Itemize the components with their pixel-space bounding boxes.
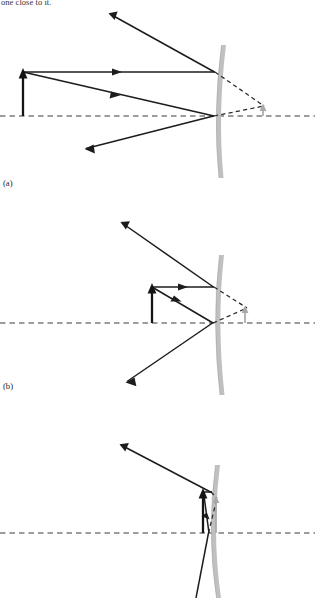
virtual-ray-a-parallel [215, 72, 264, 106]
vertex-incident-ray-a [23, 72, 214, 116]
panel-label-b: (b) [3, 381, 13, 391]
ray-diagram-canvas [0, 0, 315, 598]
panel-b [0, 221, 315, 395]
parallel-reflected-ray-a-arrowhead [109, 11, 118, 20]
parallel-reflected-ray-b [122, 223, 214, 287]
vertex-reflected-ray-b [127, 323, 213, 382]
convex-mirror-b [216, 255, 225, 395]
virtual-ray-a-vertex [214, 106, 264, 116]
parallel-incident-ray-a-arrowhead [112, 69, 122, 76]
panel-c [0, 443, 315, 598]
convex-mirror-a [216, 45, 226, 178]
panel-a [0, 11, 315, 178]
panel-label-a: (a) [3, 178, 13, 188]
parallel-incident-ray-b-arrowhead [178, 284, 188, 291]
body-text-fragment: one close to it. [1, 0, 51, 7]
parallel-reflected-ray-a [110, 14, 215, 72]
vertex-incident-ray-b [152, 287, 213, 323]
vertex-reflected-ray-a-arrowhead [85, 145, 95, 154]
vertex-reflected-ray-a [86, 116, 214, 149]
parallel-reflected-ray-c-arrowhead [120, 443, 129, 452]
vertex-reflected-ray-c [196, 533, 209, 598]
ray-diagram-figure: one close to it. (a) (b) [0, 0, 315, 598]
parallel-reflected-ray-c [121, 445, 212, 493]
